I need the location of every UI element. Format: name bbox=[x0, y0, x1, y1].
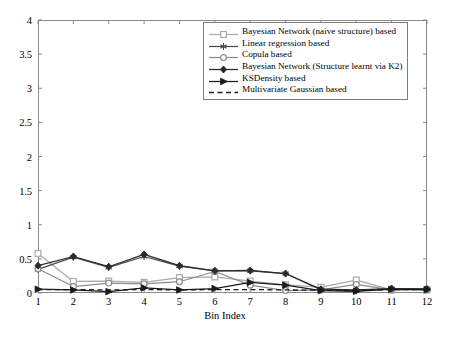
legend-marker-icon bbox=[208, 73, 239, 84]
figure: 00.511.522.533.54 123456789101112 Bin In… bbox=[0, 0, 450, 337]
legend-label: Bayesian Network (naive structure) based bbox=[239, 26, 396, 37]
y-tick-label: 3 bbox=[2, 83, 32, 94]
y-tick-label: 0.5 bbox=[2, 253, 32, 264]
legend-label: Linear regression based bbox=[239, 38, 329, 49]
x-tick-label: 11 bbox=[382, 296, 402, 307]
y-tick-label: 2 bbox=[2, 151, 32, 162]
legend-label: Multivariate Gaussian based bbox=[239, 84, 347, 95]
x-tick-label: 4 bbox=[134, 296, 154, 307]
legend-item-1: Bayesian Network (naive structure) based bbox=[208, 26, 402, 38]
x-tick-label: 8 bbox=[276, 296, 296, 307]
x-tick-label: 9 bbox=[311, 296, 331, 307]
y-tick-label: 3.5 bbox=[2, 49, 32, 60]
x-tick-label: 1 bbox=[28, 296, 48, 307]
data-point-marker bbox=[221, 32, 227, 38]
legend-label: KSDensity based bbox=[239, 73, 306, 84]
legend-marker-icon bbox=[208, 61, 239, 72]
y-tick-label: 2.5 bbox=[2, 117, 32, 128]
legend-item-5: KSDensity based bbox=[208, 72, 402, 84]
legend-item-2: Linear regression based bbox=[208, 38, 402, 50]
legend-marker-icon bbox=[208, 49, 239, 60]
y-tick-label: 1.5 bbox=[2, 185, 32, 196]
x-tick-label: 12 bbox=[417, 296, 437, 307]
x-axis-title: Bin Index bbox=[0, 310, 450, 321]
legend-item-3: Copula based bbox=[208, 49, 402, 61]
x-tick-label: 3 bbox=[99, 296, 119, 307]
x-tick-label: 5 bbox=[169, 296, 189, 307]
legend-item-4: Bayesian Network (Structure learnt via K… bbox=[208, 61, 402, 73]
legend-marker-icon bbox=[208, 26, 239, 37]
legend-label: Bayesian Network (Structure learnt via K… bbox=[239, 61, 402, 72]
legend-marker-icon bbox=[208, 38, 239, 49]
chart-legend: Bayesian Network (naive structure) based… bbox=[203, 22, 408, 100]
legend-item-6: Multivariate Gaussian based bbox=[208, 84, 402, 96]
x-tick-label: 6 bbox=[205, 296, 225, 307]
legend-label: Copula based bbox=[239, 49, 292, 60]
legend-marker-icon bbox=[208, 84, 239, 95]
y-tick-label: 1 bbox=[2, 219, 32, 230]
x-tick-label: 10 bbox=[346, 296, 366, 307]
data-point-marker bbox=[221, 55, 227, 61]
x-tick-label: 7 bbox=[240, 296, 260, 307]
x-tick-label: 2 bbox=[63, 296, 83, 307]
y-tick-label: 4 bbox=[2, 15, 32, 26]
